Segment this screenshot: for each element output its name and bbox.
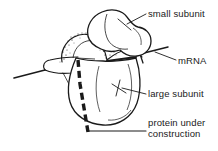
large-subunit-shape — [68, 58, 140, 125]
ribosome-diagram: small subunit mRNA large subunit protein… — [0, 0, 218, 151]
leader-small-subunit — [127, 14, 146, 24]
label-mrna: mRNA — [178, 55, 206, 66]
label-protein-line2: construction — [148, 128, 205, 139]
label-protein-under-construction: protein underconstruction — [148, 117, 205, 139]
label-protein-line1: protein under — [148, 117, 205, 128]
leader-mrna — [155, 52, 176, 60]
small-subunit-shape — [88, 10, 151, 56]
label-small-subunit: small subunit — [148, 8, 205, 19]
label-large-subunit: large subunit — [148, 88, 204, 99]
